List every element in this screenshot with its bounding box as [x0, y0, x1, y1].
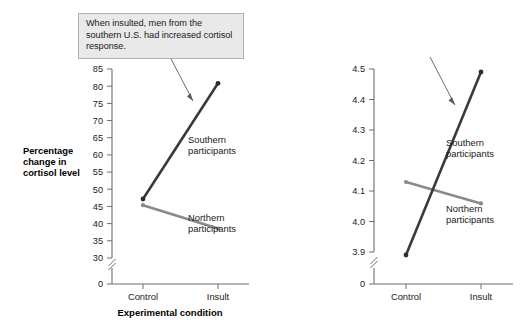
- series-label-northern-line1: Northern: [446, 203, 482, 214]
- series-label-southern-line1: Southern: [446, 137, 484, 148]
- y-tick-label: 80: [93, 82, 103, 92]
- y-tick-label: 45: [93, 202, 103, 212]
- y-tick-label: 0: [360, 279, 365, 289]
- data-point-northern-control: [404, 180, 408, 184]
- series-label-southern-line2: participants: [188, 145, 236, 156]
- data-point-southern-control: [404, 253, 409, 258]
- y-tick-labels: 85 80 75 70 65 60 55 50 45 40 35 30 0: [93, 64, 103, 289]
- callout-cortisol: When insulted, men from the southern U.S…: [78, 13, 244, 59]
- series-label-southern-line2: participants: [446, 148, 494, 159]
- y-tick-label: 40: [93, 219, 103, 229]
- series-label-northern-line2: participants: [446, 214, 494, 225]
- x-tick-label-control: Control: [128, 291, 158, 302]
- series-label-northern-line2: participants: [188, 223, 236, 234]
- callout-leader-arrow: [449, 97, 456, 105]
- series-label-southern-line1: Southern: [188, 134, 226, 145]
- y-tick-label: 4.1: [352, 186, 365, 196]
- y-tick-label: 4.0: [352, 217, 365, 227]
- axis-break-mark-2: [371, 261, 378, 268]
- x-axis-title-cortisol: Experimental condition: [95, 307, 245, 318]
- x-tick-label-control: Control: [391, 291, 421, 302]
- y-tick-label: 75: [93, 99, 103, 109]
- y-tick-label: 85: [93, 64, 103, 74]
- y-tick-group: [107, 69, 112, 284]
- y-tick-group: [369, 69, 374, 284]
- x-tick-label-insult: Insult: [470, 291, 493, 302]
- x-tick-label-insult: Insult: [207, 291, 230, 302]
- y-tick-label: 70: [93, 116, 103, 126]
- plot-svg-handshake: 4.5 4.4 4.3 4.2 4.1 4.0 3.9 0 Control In…: [265, 0, 530, 330]
- series-line-northern: [406, 182, 481, 203]
- y-tick-label: 30: [93, 253, 103, 263]
- y-tick-label: 3.9: [352, 247, 365, 257]
- chart-panel-cortisol: When insulted, men from the southern U.S…: [0, 0, 265, 330]
- series-label-northern-line1: Northern: [188, 212, 224, 223]
- y-tick-label: 60: [93, 150, 103, 160]
- figure-container: When insulted, men from the southern U.S…: [0, 0, 530, 330]
- chart-panel-handshake: When insulted, men from the southern U.S…: [265, 0, 530, 330]
- y-tick-label: 4.3: [352, 125, 365, 135]
- callout-leader-arrow: [187, 93, 193, 101]
- y-tick-label: 4.5: [352, 64, 365, 74]
- y-tick-label: 0: [98, 279, 103, 289]
- y-tick-label: 50: [93, 185, 103, 195]
- data-point-northern-control: [141, 203, 145, 207]
- y-tick-labels: 4.5 4.4 4.3 4.2 4.1 4.0 3.9 0: [352, 64, 365, 289]
- series-line-southern: [406, 72, 481, 255]
- y-tick-label: 65: [93, 133, 103, 143]
- y-tick-label: 4.2: [352, 156, 365, 166]
- axis-break-mark-1: [109, 259, 116, 266]
- data-point-southern-insult: [479, 70, 484, 75]
- axis-break-mark-1: [371, 257, 378, 264]
- y-axis-title-cortisol: Percentage change in cortisol level: [23, 146, 85, 180]
- y-tick-label: 4.4: [352, 95, 365, 105]
- data-point-southern-control: [141, 197, 146, 202]
- y-tick-label: 55: [93, 167, 103, 177]
- data-point-southern-insult: [216, 81, 221, 86]
- y-tick-label: 35: [93, 236, 103, 246]
